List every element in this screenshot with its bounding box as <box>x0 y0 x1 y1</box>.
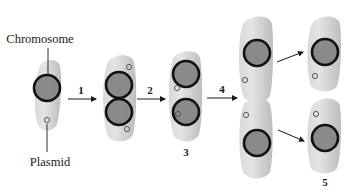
chromosome <box>34 75 60 101</box>
chromosome <box>312 125 338 151</box>
chromosome <box>244 40 270 66</box>
arrow-icon <box>278 130 304 141</box>
step-label-5: 5 <box>322 176 328 188</box>
step-label-3: 3 <box>183 146 189 158</box>
chromosome <box>106 72 132 98</box>
chromosome <box>312 39 338 65</box>
cell-stage-5-top <box>307 17 341 92</box>
cell-stage-4-bottom <box>239 98 272 178</box>
chromosome <box>173 61 199 87</box>
chromosome <box>244 130 270 156</box>
arrow-step-1: 1 <box>68 84 96 99</box>
arrow-step-4: 4 <box>207 83 237 98</box>
arrow-step-2: 2 <box>137 84 165 99</box>
cell-stage-4-top <box>239 17 273 103</box>
chromosome <box>106 99 132 125</box>
step-label-2: 2 <box>147 84 153 96</box>
arrow-icon <box>277 52 303 62</box>
step-label-1: 1 <box>78 84 84 96</box>
plasmid-label: Plasmid <box>30 155 71 169</box>
cell-division-diagram: Chromosome Plasmid 1 2 3 4 <box>0 0 360 193</box>
chromosome-label: Chromosome <box>6 32 74 46</box>
cell-stage-3: 3 <box>169 51 202 158</box>
cell-stage-2 <box>103 55 136 141</box>
step-label-4: 4 <box>219 83 225 95</box>
cell-stage-1 <box>34 60 61 131</box>
cell-stage-5-bottom: 5 <box>307 99 341 189</box>
